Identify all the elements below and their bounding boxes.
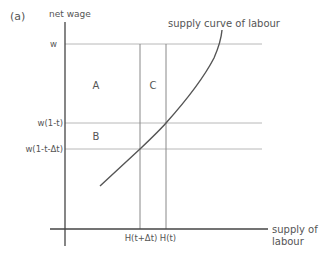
y-axis-label: net wage bbox=[49, 9, 91, 19]
h-t-label: H(t) bbox=[160, 233, 176, 243]
curve-label: supply curve of labour bbox=[168, 18, 281, 29]
area-a-label: A bbox=[93, 80, 100, 91]
area-b-label: B bbox=[93, 131, 100, 142]
area-c-label: C bbox=[150, 80, 157, 91]
supply-curve bbox=[100, 30, 222, 186]
x-axis-label-line2: labour bbox=[272, 236, 305, 247]
h-t-dt-label: H(t+Δt) bbox=[125, 233, 158, 243]
x-axis-label-line1: supply of bbox=[272, 224, 318, 235]
labour-supply-diagram: (a) net wage supply curve of labour w w(… bbox=[0, 0, 323, 260]
panel-label: (a) bbox=[10, 10, 25, 23]
w-after-tax-label: w(1-t) bbox=[38, 118, 63, 128]
w-after-tax-increase-label: w(1-t-Δt) bbox=[25, 144, 63, 154]
w-label: w bbox=[50, 39, 57, 49]
